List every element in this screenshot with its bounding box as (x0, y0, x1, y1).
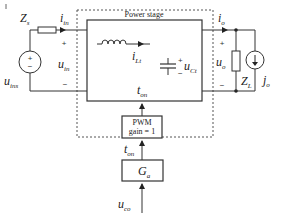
output-circuit (202, 27, 264, 93)
source-voltage-label: uins (4, 74, 18, 90)
input-voltage-label: uin (58, 57, 70, 73)
converter-block-diagram: Power stage + − Zs iin + uin − uins iLt … (0, 0, 283, 215)
pwm-gain-label: gain = 1 (129, 127, 155, 136)
power-stage-title: Power stage (125, 10, 164, 19)
input-minus: − (63, 80, 68, 89)
source-impedance-label: Zs (20, 11, 30, 27)
load-impedance-label: ZL (241, 74, 252, 90)
pwm-label: PWM (132, 118, 151, 127)
output-plus: + (220, 39, 225, 48)
output-voltage-label: uo (216, 55, 226, 71)
output-current-arrow-icon (222, 27, 228, 33)
source-impedance-resistor (38, 27, 56, 33)
load-impedance-resistor (232, 51, 240, 71)
cap-minus: − (178, 69, 183, 78)
control-ton-label: ton (124, 142, 135, 158)
svg-text:−: − (28, 62, 33, 71)
load-current-label: jo (261, 73, 270, 89)
cap-plus: + (178, 56, 183, 65)
input-current-label: iin (60, 11, 69, 27)
output-minus: − (220, 81, 225, 90)
control-voltage-label: uco (118, 197, 131, 213)
input-plus: + (62, 39, 67, 48)
input-current-arrow-icon (60, 27, 66, 33)
output-current-label: io (218, 11, 225, 27)
